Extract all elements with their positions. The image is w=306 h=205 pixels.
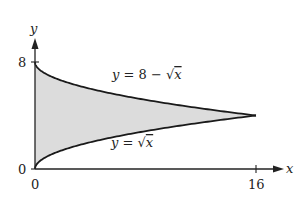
chart-canvas: y x 8 0 0 16 y = 8 − √x y = √x bbox=[0, 0, 306, 205]
x-axis-label: x bbox=[286, 161, 294, 176]
tick-label-y0: 0 bbox=[18, 162, 26, 177]
y-axis-label: y bbox=[29, 21, 38, 36]
tick-label-x16: 16 bbox=[248, 177, 265, 192]
x-axis-arrow-icon bbox=[273, 166, 284, 173]
y-axis-arrow-icon bbox=[32, 38, 39, 49]
upper-curve-label: y = 8 − √x bbox=[111, 67, 182, 82]
tick-label-y8: 8 bbox=[18, 55, 26, 70]
upper-label-x: x bbox=[174, 67, 182, 82]
upper-label-eq: = 8 − bbox=[119, 67, 166, 82]
lower-label-eq: = bbox=[118, 135, 137, 150]
lower-label-x: x bbox=[146, 135, 154, 150]
tick-label-x0: 0 bbox=[31, 177, 39, 192]
lower-curve-label: y = √x bbox=[110, 135, 154, 150]
